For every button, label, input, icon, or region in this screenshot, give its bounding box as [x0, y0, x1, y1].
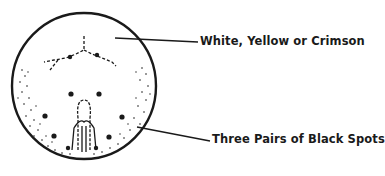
- label-spots: Three Pairs of Black Spots: [212, 132, 385, 146]
- leader-line-spots: [137, 127, 210, 141]
- leader-line-color: [115, 38, 198, 42]
- label-color: White, Yellow or Crimson: [200, 34, 365, 48]
- specimen-outline: [12, 13, 156, 159]
- central-organ: [72, 100, 96, 152]
- suture-marks: [44, 36, 116, 70]
